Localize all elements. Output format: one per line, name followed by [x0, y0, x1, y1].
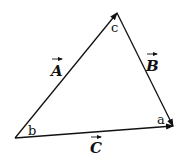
- vector-c-arrow: [15, 126, 173, 138]
- vector-triangle-diagram: A B C c b a: [0, 0, 182, 162]
- diagram-svg: A B C c b a: [0, 0, 182, 162]
- svg-text:A: A: [49, 62, 63, 80]
- vector-b-label: B: [145, 54, 159, 75]
- vertex-b-label: b: [28, 123, 36, 138]
- svg-text:B: B: [145, 57, 159, 75]
- vector-c-label: C: [90, 137, 102, 157]
- vector-a-arrow: [15, 13, 117, 138]
- svg-text:C: C: [90, 139, 102, 157]
- vertex-a-label: a: [157, 112, 165, 127]
- vector-a-label: A: [49, 59, 63, 80]
- vector-b-arrow: [117, 13, 173, 126]
- vertex-c-label: c: [111, 20, 118, 35]
